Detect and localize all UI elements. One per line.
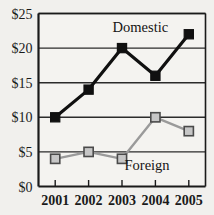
data-point-foreign-2005 [184, 127, 193, 136]
y-axis-tick-label: $5 [19, 145, 33, 160]
series-label-domestic: Domestic [113, 19, 169, 35]
series-label-foreign: Foreign [124, 157, 170, 173]
data-point-foreign-2002 [84, 147, 93, 156]
data-point-foreign-2001 [51, 154, 60, 163]
y-axis-tick-label: $20 [12, 41, 33, 56]
y-axis-tick-label: $10 [12, 110, 33, 125]
data-point-domestic-2001 [51, 113, 60, 122]
data-point-domestic-2002 [84, 85, 93, 94]
y-axis-tick-label: $25 [12, 7, 33, 22]
x-axis-tick-label: 2002 [75, 193, 103, 208]
y-axis-tick-label: $0 [19, 180, 33, 195]
data-point-domestic-2004 [151, 71, 160, 80]
data-point-foreign-2004 [151, 113, 160, 122]
x-axis-tick-label: 2005 [175, 193, 203, 208]
line-chart: $0$5$10$15$20$2520012002200320042005Dome… [0, 0, 214, 215]
data-point-domestic-2005 [184, 30, 193, 39]
data-point-domestic-2003 [117, 44, 126, 53]
chart-container: $0$5$10$15$20$2520012002200320042005Dome… [0, 0, 214, 215]
x-axis-tick-label: 2003 [108, 193, 136, 208]
x-axis-tick-label: 2004 [141, 193, 169, 208]
x-axis-tick-label: 2001 [41, 193, 69, 208]
y-axis-tick-label: $15 [12, 76, 33, 91]
